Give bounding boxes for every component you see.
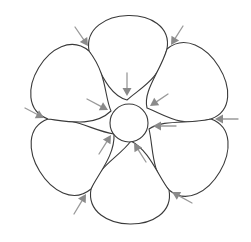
arrow-shaft — [74, 201, 82, 214]
outer-junction-arrow — [75, 27, 88, 46]
arrow-shaft — [179, 196, 192, 203]
outer-junction-arrow — [74, 194, 86, 214]
pinwheel-diagram — [0, 0, 251, 242]
arrow-shaft — [75, 27, 84, 39]
arrow-shaft — [175, 26, 183, 38]
central-hub-circle — [110, 104, 148, 142]
arrowhead-icon — [80, 37, 88, 46]
outer-junction-arrow — [215, 115, 238, 124]
